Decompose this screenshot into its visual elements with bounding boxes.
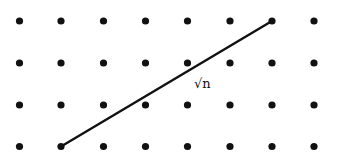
lattice-dot: [16, 59, 23, 66]
lattice-dot: [142, 17, 149, 24]
lattice-dot: [310, 17, 317, 24]
lattice-dot: [100, 143, 107, 150]
lattice-dot: [226, 143, 233, 150]
segment-length-label: √n: [194, 77, 211, 90]
lattice-dot: [268, 143, 275, 150]
lattice-dot: [57, 17, 64, 24]
lattice-dot: [16, 17, 23, 24]
lattice-dot: [226, 59, 233, 66]
lattice-dot: [57, 101, 64, 108]
lattice-dot: [100, 59, 107, 66]
lattice-dot: [16, 101, 23, 108]
lattice-dot: [184, 143, 191, 150]
lattice-dot: [226, 101, 233, 108]
lattice-dot: [100, 101, 107, 108]
lattice-dot: [226, 17, 233, 24]
lattice-dot: [310, 101, 317, 108]
lattice-diagram: [0, 0, 347, 165]
lattice-dot: [268, 101, 275, 108]
lattice-dot: [268, 59, 275, 66]
lattice-dot: [184, 101, 191, 108]
lattice-dot: [100, 17, 107, 24]
lattice-dot: [310, 143, 317, 150]
lattice-dot: [142, 59, 149, 66]
lattice-dot: [16, 143, 23, 150]
lattice-dot: [57, 59, 64, 66]
lattice-dot: [310, 59, 317, 66]
lattice-dot: [184, 17, 191, 24]
diagonal-segment: [61, 21, 272, 147]
lattice-dot: [142, 101, 149, 108]
lattice-dot: [184, 59, 191, 66]
lattice-dot: [142, 143, 149, 150]
